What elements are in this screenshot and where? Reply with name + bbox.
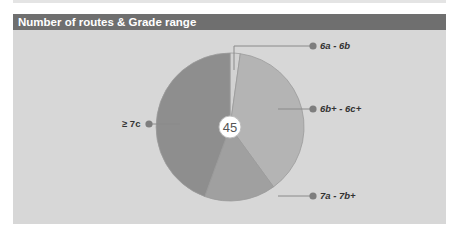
marker-6a-6b [309,42,316,49]
marker-7c [145,120,152,127]
label-7c: ≥ 7c [122,118,140,129]
label-6a-6b: 6a - 6b [320,40,350,51]
marker-7a-7bp [309,192,316,199]
label-6bp-6cp: 6b+ - 6c+ [320,103,361,114]
center-total: 45 [223,120,237,135]
marker-6bp-6cp [309,105,316,112]
pie-chart: 45 [0,0,457,236]
label-7a-7bp: 7a - 7b+ [320,190,356,201]
